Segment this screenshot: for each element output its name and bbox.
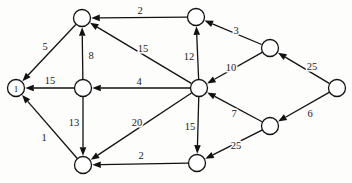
- arrow-head-icon: [205, 152, 214, 159]
- graph-edge: [91, 15, 187, 22]
- graph-node[interactable]: [74, 10, 91, 27]
- arrow-head-icon: [90, 23, 99, 30]
- node-circle[interactable]: [74, 10, 91, 27]
- arrow-head-icon: [79, 27, 86, 36]
- graph-canvas: 5515151188221515131344202022121233101015…: [0, 0, 352, 183]
- edge-weight-label: 10: [226, 62, 237, 73]
- graph-node[interactable]: [262, 118, 279, 135]
- graph-node[interactable]: [191, 80, 208, 97]
- node-circle[interactable]: [262, 40, 279, 57]
- edge-weight-label: 25: [231, 140, 242, 151]
- arrow-head-icon: [194, 145, 201, 154]
- node-circle[interactable]: [188, 9, 205, 26]
- edge-weight-label: 6: [307, 108, 312, 119]
- graph-node[interactable]: [188, 9, 205, 26]
- arrow-head-icon: [80, 147, 87, 156]
- graph-node[interactable]: [329, 80, 346, 97]
- arrow-head-icon: [278, 114, 287, 121]
- graph-edge: [79, 27, 86, 79]
- nodes-layer: 1: [8, 9, 346, 174]
- graph-node[interactable]: [189, 155, 206, 172]
- arrow-head-icon: [91, 152, 100, 159]
- graph-node[interactable]: [262, 40, 279, 57]
- arrow-head-icon: [278, 53, 287, 60]
- graph-edge: [278, 92, 329, 121]
- graph-node[interactable]: 1: [8, 80, 25, 97]
- graph-edge: [193, 26, 200, 79]
- edge-weight-label: 15: [138, 43, 149, 54]
- edges-layer: [22, 15, 329, 168]
- directed-weighted-graph: 5515151188221515131344202022121233101015…: [0, 0, 352, 183]
- edge-weight-label: 4: [136, 76, 142, 87]
- edge-weight-label: 5: [42, 41, 47, 52]
- edge-weight-label: 15: [185, 121, 196, 132]
- graph-node[interactable]: [75, 80, 92, 97]
- edge-weight-label: 25: [307, 61, 318, 72]
- node-circle[interactable]: [262, 118, 279, 135]
- arrow-head-icon: [92, 85, 101, 92]
- arrow-head-icon: [207, 76, 216, 83]
- graph-edge: [80, 97, 87, 156]
- edge-weight-label: 2: [137, 5, 142, 16]
- node-circle[interactable]: [191, 80, 208, 97]
- node-circle[interactable]: [329, 80, 346, 97]
- node-label: 1: [14, 84, 19, 94]
- node-circle[interactable]: [75, 80, 92, 97]
- edge-weight-label: 8: [88, 50, 93, 61]
- edge-weight-label: 13: [69, 117, 80, 128]
- arrow-head-icon: [92, 161, 101, 168]
- graph-edge: [278, 53, 329, 84]
- edge-weight-label: 3: [233, 25, 238, 36]
- edge-weight-label: 20: [132, 117, 143, 128]
- graph-edge: [25, 85, 74, 92]
- edge-weight-label: 1: [41, 132, 46, 143]
- graph-edge: [22, 25, 75, 82]
- arrow-head-icon: [207, 92, 216, 99]
- arrow-head-icon: [91, 15, 100, 22]
- edge-weight-label: 2: [138, 150, 143, 161]
- arrow-head-icon: [193, 26, 200, 35]
- arrow-head-icon: [25, 85, 34, 92]
- arrow-head-icon: [205, 21, 214, 27]
- node-circle[interactable]: [75, 157, 92, 174]
- edge-weight-label: 7: [231, 108, 236, 119]
- edge-weight-label: 15: [45, 75, 56, 86]
- graph-edge: [92, 161, 188, 168]
- graph-node[interactable]: [75, 157, 92, 174]
- edge-weight-label: 12: [184, 51, 195, 62]
- node-circle[interactable]: [189, 155, 206, 172]
